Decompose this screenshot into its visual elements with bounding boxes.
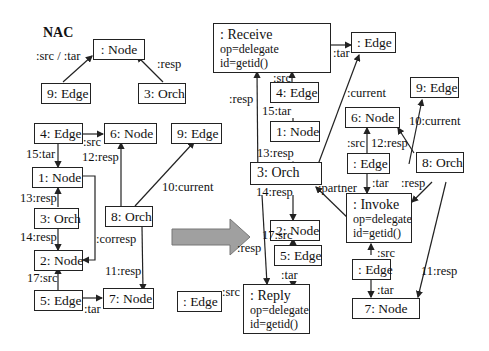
lhs-label-14-resp: 14:resp: [20, 230, 57, 245]
rhs-label-tar-invoke: :tar: [372, 176, 389, 191]
lhs-label-11-resp: 11:resp: [105, 264, 141, 279]
lhs-label-corresp: :corresp: [96, 232, 136, 247]
rhs-label-resp-mid: :resp: [237, 241, 261, 256]
rhs-label-14-resp: 14:resp: [256, 185, 293, 200]
rhs-label-resp-left: :resp: [229, 92, 253, 107]
rhs-label-13-resp: 13:resp: [257, 146, 294, 161]
lhs-edge-4: 4: Edge: [34, 123, 83, 144]
rhs-label-resp-8: :resp: [401, 176, 425, 191]
rhs-invoke-op: op=delegate: [353, 213, 405, 227]
rhs-edge-9: 9: Edge: [410, 77, 459, 98]
rhs-label-15-tar: 15:tar: [262, 104, 291, 119]
lhs-node-2: 2: Node: [34, 250, 83, 271]
lhs-orch-8: 8: Orch: [105, 206, 153, 227]
nac-node: : Node: [93, 39, 145, 60]
lhs-edge-5: 5: Edge: [34, 290, 83, 311]
lhs-label-tar: :tar: [84, 302, 101, 317]
nac-title: NAC: [43, 25, 73, 41]
rhs-receive-id: id=getid(): [220, 57, 324, 71]
lhs-label-17-src: 17:src: [27, 271, 58, 286]
rhs-label-current: :current: [347, 86, 386, 101]
nac-label-src-tar: :src / :tar: [36, 49, 80, 64]
rhs-label-11-resp: 11:resp: [421, 264, 457, 279]
rhs-label-partner: :partner: [318, 181, 357, 196]
rhs-node-1: 1: Node: [270, 121, 320, 142]
rhs-label-10-current: 10:current: [409, 114, 460, 129]
lhs-edge-9: 9: Edge: [171, 123, 222, 144]
rhs-receive-op: op=delegate: [220, 43, 324, 57]
lhs-label-15-tar: 15:tar: [26, 147, 55, 162]
rhs-invoke: : Invoke op=delegate id=getid(): [346, 193, 412, 243]
rhs-reply: : Reply op=delegate id=getid(): [243, 284, 310, 334]
rhs-edge-low: : Edge: [352, 259, 391, 280]
rhs-edge-5: 5: Edge: [274, 245, 322, 266]
rhs-label-src-6: :src: [347, 136, 365, 151]
nac-orch-3: 3: Orch: [138, 83, 186, 104]
rhs-label-tar-top: :tar: [333, 46, 350, 61]
rhs-reply-id: id=getid(): [250, 318, 303, 332]
nac-label-resp: :resp: [157, 57, 181, 72]
nac-edge-9: 9: Edge: [41, 83, 91, 104]
rhs-orch-8: 8: Orch: [416, 152, 464, 173]
rhs-node-7: 7: Node: [352, 298, 420, 319]
rhs-edge-mid: : Edge: [347, 153, 390, 174]
rhs-label-src-reply: :src: [222, 285, 240, 300]
rhs-label-src-invoke: :src: [377, 246, 395, 261]
rhs-orch-3: 3: Orch: [250, 162, 322, 185]
rhs-label-src-receive: :src: [273, 71, 291, 86]
rhs-label-17-src: 17:src: [262, 228, 293, 243]
rhs-node-6: 6: Node: [345, 107, 400, 128]
lhs-label-10-current: 10:current: [162, 180, 213, 195]
rhs-label-tar-reply: :tar: [281, 268, 298, 283]
rhs-label-12-resp: 12:resp: [371, 136, 408, 151]
lhs-node-7: 7: Node: [103, 288, 154, 309]
rhs-reply-op: op=delegate: [250, 304, 303, 318]
lhs-node-1: 1: Node: [32, 167, 83, 188]
rhs-receive: : Receive op=delegate id=getid(): [213, 23, 331, 73]
lhs-label-12-resp: 12:resp: [82, 150, 119, 165]
rhs-receive-title: : Receive: [220, 27, 324, 43]
lhs-label-13-resp: 13:resp: [20, 191, 57, 206]
rhs-invoke-id: id=getid(): [353, 227, 405, 241]
lhs-label-src: :src: [83, 135, 101, 150]
rhs-edge-left: : Edge: [177, 291, 222, 312]
rhs-invoke-title: : Invoke: [353, 197, 405, 213]
rhs-label-tar-low: :tar: [377, 283, 394, 298]
lhs-orch-3: 3: Orch: [34, 208, 79, 229]
rhs-edge-top: : Edge: [351, 32, 396, 53]
rhs-reply-title: : Reply: [250, 288, 303, 304]
lhs-node-6: 6: Node: [104, 123, 157, 144]
